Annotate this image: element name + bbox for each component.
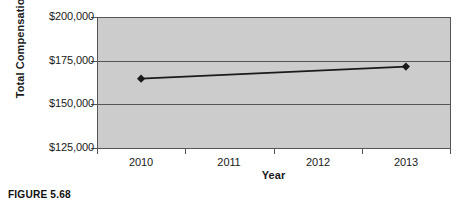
figure-caption: FIGURE 5.68 <box>8 188 71 200</box>
data-point-marker <box>137 75 145 83</box>
line-chart: $125,000$150,000$175,000$200,000 2010201… <box>0 0 471 185</box>
figure-container: $125,000$150,000$175,000$200,000 2010201… <box>0 0 471 209</box>
data-point-marker <box>402 63 410 71</box>
series-line <box>141 67 406 79</box>
data-series-layer <box>0 0 471 185</box>
